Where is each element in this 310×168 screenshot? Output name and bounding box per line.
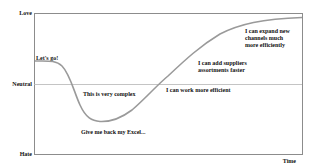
annotation-add-suppliers: I can add suppliers assortments faster [198, 60, 247, 74]
annotation-line: assortments faster [198, 67, 247, 74]
annotation-give-back-excel: Give me back my Excel... [81, 129, 146, 136]
annotation-line: I can expand new [245, 28, 290, 35]
annotation-line: I can add suppliers [198, 60, 247, 67]
y-label-love: Love [12, 10, 32, 16]
y-label-hate: Hate [12, 151, 32, 157]
x-label-time: Time [276, 158, 296, 164]
sentiment-curve-diagram [0, 0, 310, 168]
annotation-lets-go: Let's go! [36, 55, 58, 62]
annotation-line: more efficiently [245, 42, 290, 49]
annotation-very-complex: This is very complex [83, 91, 136, 98]
annotation-expand-channels: I can expand new channels much more effi… [245, 28, 290, 49]
y-label-neutral: Neutral [4, 81, 32, 87]
annotation-line: channels much [245, 35, 290, 42]
annotation-work-efficient: I can work more efficient [166, 87, 231, 94]
